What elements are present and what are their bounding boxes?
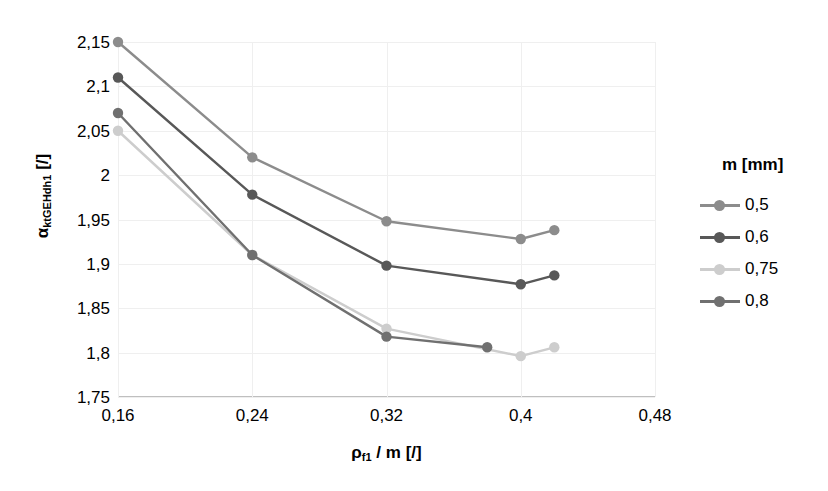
legend-title: m [mm] <box>722 155 828 175</box>
x-axis-title: ρf1 / m [/] <box>118 443 655 463</box>
legend-entry-label: 0,5 <box>745 195 769 215</box>
series-line <box>118 131 554 356</box>
y-axis-tick-label: 2 <box>50 167 110 184</box>
x-axis-tick-label: 0,32 <box>347 406 427 426</box>
series-line <box>118 113 487 347</box>
legend-entry[interactable]: 0,6 <box>700 221 828 253</box>
data-point-marker <box>113 126 123 136</box>
horizontal-gridline <box>118 397 655 398</box>
data-point-marker <box>516 351 526 361</box>
y-axis-tick-label: 2,15 <box>50 34 110 51</box>
data-point-marker <box>549 270 559 280</box>
data-point-marker <box>516 279 526 289</box>
data-point-marker <box>381 216 391 226</box>
legend-entry[interactable]: 0,5 <box>700 189 828 221</box>
x-axis-tick-label: 0,48 <box>615 406 695 426</box>
series-line <box>118 42 554 239</box>
data-point-marker <box>482 342 492 352</box>
data-point-marker <box>113 108 123 118</box>
chart-canvas: αktGEHdh1 [/] 2,152,12,0521,951,91,851,8… <box>0 0 828 491</box>
data-point-marker <box>549 225 559 235</box>
y-axis-tick-label: 2,05 <box>50 123 110 140</box>
legend-entry-label: 0,6 <box>745 227 769 247</box>
x-axis-tick-label: 0,16 <box>78 406 158 426</box>
data-point-marker <box>113 37 123 47</box>
legend-entries: 0,50,60,750,8 <box>700 189 828 317</box>
y-axis-tick-label: 2,1 <box>50 78 110 95</box>
legend-entry-label: 0,8 <box>745 291 769 311</box>
legend-marker-icon <box>700 230 740 244</box>
y-axis-tick-label: 1,8 <box>50 345 110 362</box>
data-point-marker <box>549 342 559 352</box>
x-axis-title-subscript: f1 <box>362 451 372 463</box>
data-point-marker <box>247 250 257 260</box>
x-axis-title-symbol: ρ <box>351 443 362 462</box>
y-axis-tick-label: 1,85 <box>50 300 110 317</box>
plot-area <box>118 42 655 397</box>
legend: m [mm] 0,50,60,750,8 <box>700 155 828 317</box>
legend-entry[interactable]: 0,75 <box>700 253 828 285</box>
y-axis-tick-label: 1,75 <box>50 389 110 406</box>
data-point-marker <box>516 234 526 244</box>
x-axis-title-rest: / m [/] <box>372 443 422 462</box>
legend-marker-icon <box>700 198 740 212</box>
vertical-gridline <box>655 42 656 397</box>
series-layer <box>118 42 655 397</box>
data-point-marker <box>247 189 257 199</box>
legend-entry[interactable]: 0,8 <box>700 285 828 317</box>
legend-entry-label: 0,75 <box>745 259 778 279</box>
y-axis-tick-label: 1,95 <box>50 212 110 229</box>
legend-marker-icon <box>700 262 740 276</box>
legend-marker-icon <box>700 294 740 308</box>
x-axis-tick-label: 0,4 <box>481 406 561 426</box>
data-point-marker <box>247 152 257 162</box>
data-point-marker <box>113 72 123 82</box>
data-point-marker <box>381 260 391 270</box>
y-axis-tick-label: 1,9 <box>50 256 110 273</box>
x-axis-tick-label: 0,24 <box>212 406 292 426</box>
data-point-marker <box>381 331 391 341</box>
